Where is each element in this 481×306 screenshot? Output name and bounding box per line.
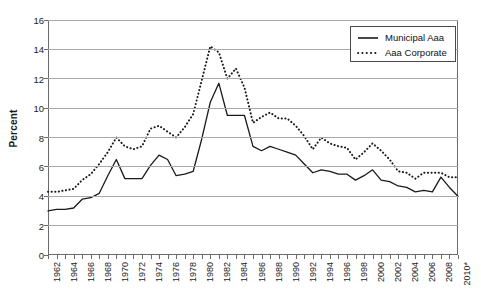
y-tick-mark: [44, 20, 48, 21]
x-axis: 1962196419661968197019721974197619781980…: [48, 255, 458, 306]
gridline: [48, 137, 458, 138]
x-tick-mark: [125, 255, 126, 259]
x-tick-mark: [116, 255, 117, 259]
x-tick-mark: [398, 255, 399, 259]
x-tick-mark: [202, 255, 203, 259]
x-tick-mark: [330, 255, 331, 259]
x-tick-mark: [159, 255, 160, 259]
x-tick-mark: [74, 255, 75, 259]
x-tick-label: 1984: [239, 262, 249, 282]
x-tick-mark: [356, 255, 357, 259]
x-tick-mark: [185, 255, 186, 259]
y-tick-label: 10: [33, 103, 44, 114]
gridline: [48, 225, 458, 226]
x-tick-label: 1964: [69, 262, 79, 282]
x-tick-label: 1976: [171, 262, 181, 282]
x-tick-mark: [65, 255, 66, 259]
x-tick-label: 1982: [222, 262, 232, 282]
x-tick-mark: [321, 255, 322, 259]
x-tick-mark: [407, 255, 408, 259]
x-tick-label: 2006: [427, 262, 437, 282]
x-tick-mark: [381, 255, 382, 259]
x-tick-label: 1996: [342, 262, 352, 282]
x-tick-label: 1986: [257, 262, 267, 282]
x-tick-mark: [270, 255, 271, 259]
x-tick-label: 1988: [274, 262, 284, 282]
x-tick-mark: [253, 255, 254, 259]
y-axis-title: Percent: [0, 0, 26, 256]
x-tick-mark: [287, 255, 288, 259]
x-tick-mark: [449, 255, 450, 259]
gridline: [48, 108, 458, 109]
x-tick-mark: [57, 255, 58, 259]
dotted-line-icon: [357, 48, 379, 58]
gridline: [48, 78, 458, 79]
x-tick-mark: [108, 255, 109, 259]
x-tick-label: 2010*: [462, 262, 472, 286]
x-tick-mark: [236, 255, 237, 259]
gridline: [48, 196, 458, 197]
y-tick-mark: [44, 49, 48, 50]
x-tick-mark: [227, 255, 228, 259]
chart-container: Percent 0246810121416 196219641966196819…: [0, 0, 481, 306]
x-tick-mark: [151, 255, 152, 259]
legend-label-municipal-aaa: Municipal Aaa: [385, 32, 444, 43]
x-tick-mark: [168, 255, 169, 259]
x-tick-mark: [210, 255, 211, 259]
series-line-aaa-corporate: [48, 46, 458, 191]
x-tick-mark: [193, 255, 194, 259]
x-tick-label: 1980: [205, 262, 215, 282]
x-tick-mark: [364, 255, 365, 259]
x-tick-label: 1992: [308, 262, 318, 282]
gridline: [48, 166, 458, 167]
y-tick-mark: [44, 196, 48, 197]
x-tick-mark: [279, 255, 280, 259]
x-tick-mark: [244, 255, 245, 259]
x-tick-mark: [219, 255, 220, 259]
x-tick-label: 1966: [86, 262, 96, 282]
x-tick-mark: [304, 255, 305, 259]
x-tick-label: 2008: [444, 262, 454, 282]
y-tick-mark: [44, 166, 48, 167]
x-tick-mark: [133, 255, 134, 259]
x-tick-mark: [82, 255, 83, 259]
x-tick-label: 1962: [52, 262, 62, 282]
x-tick-label: 1998: [359, 262, 369, 282]
x-tick-mark: [458, 255, 459, 259]
x-tick-label: 1978: [188, 262, 198, 282]
y-tick-mark: [44, 108, 48, 109]
x-tick-label: 2004: [410, 262, 420, 282]
x-tick-mark: [424, 255, 425, 259]
series-line-municipal-aaa: [48, 83, 458, 211]
y-tick-label: 16: [33, 15, 44, 26]
x-tick-label: 1970: [120, 262, 130, 282]
y-tick-mark: [44, 78, 48, 79]
x-tick-mark: [441, 255, 442, 259]
x-tick-label: 1974: [154, 262, 164, 282]
y-axis-tick-labels: 0246810121416: [26, 0, 46, 256]
y-tick-label: 14: [33, 44, 44, 55]
x-tick-mark: [313, 255, 314, 259]
y-tick-mark: [44, 137, 48, 138]
x-tick-mark: [99, 255, 100, 259]
x-tick-mark: [432, 255, 433, 259]
x-tick-mark: [91, 255, 92, 259]
x-tick-mark: [347, 255, 348, 259]
x-tick-label: 1990: [291, 262, 301, 282]
legend-item-municipal-aaa: Municipal Aaa: [351, 30, 455, 45]
x-tick-mark: [373, 255, 374, 259]
legend-label-aaa-corporate: Aaa Corporate: [385, 47, 447, 58]
x-tick-label: 1972: [137, 262, 147, 282]
y-axis-title-text: Percent: [8, 109, 19, 147]
x-tick-mark: [262, 255, 263, 259]
x-tick-mark: [390, 255, 391, 259]
x-tick-mark: [48, 255, 49, 259]
x-tick-label: 1968: [103, 262, 113, 282]
x-tick-mark: [415, 255, 416, 259]
x-tick-mark: [176, 255, 177, 259]
gridline: [48, 20, 458, 21]
x-tick-label: 2000: [376, 262, 386, 282]
x-tick-label: 2002: [393, 262, 403, 282]
x-tick-label: 1994: [325, 262, 335, 282]
solid-line-icon: [357, 33, 379, 43]
